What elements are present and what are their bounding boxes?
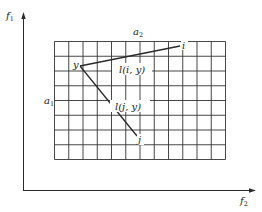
grid-top-label: a2 — [133, 26, 143, 39]
point-label-y: y — [72, 59, 79, 70]
x-axis-label: f2 — [239, 195, 248, 208]
edge-label-iy: l(i, y) — [119, 64, 145, 75]
y-axis-label: f1 — [5, 10, 14, 23]
edge-label-jy: l(j, y) — [115, 101, 141, 112]
grid-left-label: a1 — [44, 95, 54, 108]
point-label-i: i — [182, 40, 185, 51]
x-axis-arrow-icon — [249, 188, 256, 192]
y-axis-arrow-icon — [21, 12, 25, 19]
diagram-canvas: f1 f2 a2 a1 y i j l(i, y) l(j, y) — [0, 0, 262, 212]
